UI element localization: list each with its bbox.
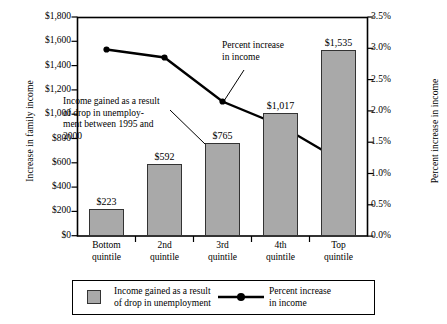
bar-value-2nd-quintile: $592 (130, 151, 200, 162)
bar-value-3rd-quintile: $765 (188, 130, 258, 141)
bar-3rd-quintile (205, 143, 240, 236)
legend-label-line: Percent increase in income (269, 286, 374, 309)
line-annotation-text: Percent increase in income (222, 40, 332, 63)
legend-marker-line (218, 290, 264, 304)
line-point-2 (161, 54, 167, 60)
bar-bottom-quintile (89, 209, 124, 236)
x-category-top-quintile: Top quintile (304, 240, 374, 263)
line-point-1 (103, 46, 109, 52)
bar-top-quintile (321, 50, 356, 236)
bar-value-4th-quintile: $1,017 (246, 100, 316, 111)
chart-legend: Income gained as a result of drop in une… (72, 280, 375, 315)
bars-annotation-text: Income gained as a result of drop in une… (63, 96, 198, 142)
y-axis-right-title: Percent increase in income (430, 51, 440, 211)
bar-4th-quintile (263, 113, 298, 236)
bar-2nd-quintile (147, 164, 182, 236)
bar-value-bottom-quintile: $223 (72, 196, 142, 207)
legend-swatch-bars (87, 290, 101, 304)
chart-container: Increase in family income Percent increa… (0, 0, 447, 324)
line-point-3 (219, 98, 225, 104)
line-annotation-leader (222, 70, 244, 104)
